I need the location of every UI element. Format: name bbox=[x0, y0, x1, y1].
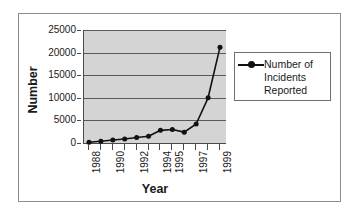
y-axis-tick-label: 25000 bbox=[48, 25, 76, 35]
data-point-marker bbox=[98, 139, 103, 144]
data-point-marker bbox=[110, 138, 115, 143]
y-axis-tick-mark bbox=[77, 120, 81, 121]
x-axis-title: Year bbox=[83, 182, 227, 196]
y-axis-tick-labels: 0500010000150002000025000 bbox=[40, 24, 81, 150]
x-axis-tick-marks bbox=[83, 144, 227, 151]
y-axis-tick-mark bbox=[77, 143, 81, 144]
legend-entry-label: Number of Incidents Reported bbox=[264, 58, 313, 97]
y-axis-tick-label: 10000 bbox=[48, 93, 76, 103]
x-axis-tick-label: 1992 bbox=[140, 151, 150, 173]
chart-legend: Number of Incidents Reported bbox=[234, 52, 331, 101]
x-axis-tick-label: 1995 bbox=[175, 151, 185, 173]
data-point-marker bbox=[206, 95, 211, 100]
x-axis-tick-label: 1988 bbox=[92, 151, 102, 173]
x-axis-tick-mark bbox=[100, 144, 101, 150]
x-axis-tick-labels: 1988199019921994199519971999 bbox=[83, 151, 227, 181]
x-axis-tick-label: 1997 bbox=[199, 151, 209, 173]
x-axis-tick-mark bbox=[136, 144, 137, 150]
x-axis-tick-mark bbox=[112, 144, 113, 150]
data-point-marker bbox=[194, 122, 199, 127]
x-axis-tick-mark bbox=[88, 144, 89, 150]
data-point-marker bbox=[122, 136, 127, 141]
x-axis-tick-mark bbox=[159, 144, 160, 150]
x-axis-tick-mark bbox=[183, 144, 184, 150]
x-axis-tick-mark bbox=[195, 144, 196, 150]
x-axis-tick-label: 1990 bbox=[116, 151, 126, 173]
x-axis-tick-mark bbox=[148, 144, 149, 150]
chart-figure: Number 0500010000150002000025000 1988199… bbox=[0, 0, 359, 218]
x-axis-tick-mark bbox=[124, 144, 125, 150]
y-axis-tick-mark bbox=[77, 98, 81, 99]
x-axis-tick-mark bbox=[171, 144, 172, 150]
x-axis-tick-mark bbox=[219, 144, 220, 150]
x-axis-tick-mark bbox=[207, 144, 208, 150]
data-point-marker bbox=[182, 130, 187, 135]
y-axis-tick-label: 20000 bbox=[48, 48, 76, 58]
y-axis-tick-label: 15000 bbox=[48, 70, 76, 80]
plot-area bbox=[83, 30, 226, 144]
y-axis-tick-mark bbox=[77, 75, 81, 76]
data-point-marker bbox=[134, 135, 139, 140]
data-point-marker bbox=[158, 128, 163, 133]
x-axis-tick-label: 1994 bbox=[163, 151, 173, 173]
y-axis-tick-label: 5000 bbox=[54, 115, 76, 125]
y-axis-tick-mark bbox=[77, 53, 81, 54]
y-axis-tick-label: 0 bbox=[70, 138, 76, 148]
data-series-line bbox=[84, 30, 226, 143]
data-point-marker bbox=[146, 134, 151, 139]
data-point-marker bbox=[218, 45, 223, 50]
y-axis-title-text: Number bbox=[26, 66, 40, 113]
x-axis-tick-label: 1999 bbox=[223, 151, 233, 173]
legend-line-marker-icon bbox=[238, 59, 264, 71]
data-point-marker bbox=[170, 127, 175, 132]
y-axis-tick-mark bbox=[77, 30, 81, 31]
series-polyline bbox=[89, 47, 220, 142]
